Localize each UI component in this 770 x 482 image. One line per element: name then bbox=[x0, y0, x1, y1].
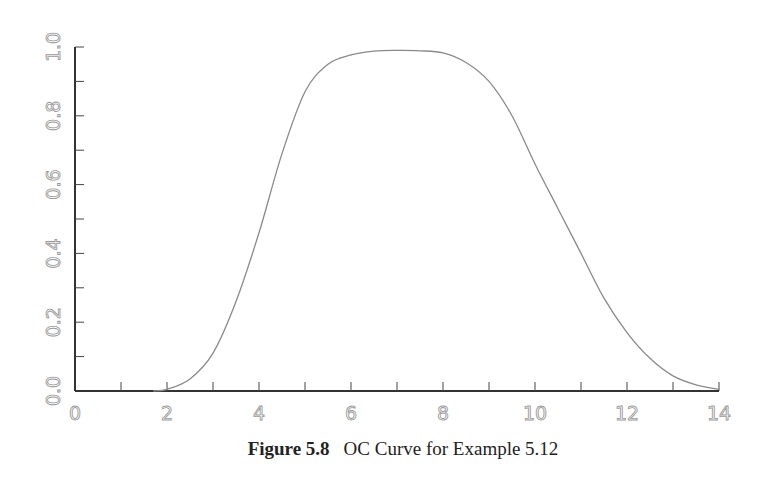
x-tick-label: 8 bbox=[437, 402, 449, 424]
x-tick-label: 14 bbox=[707, 402, 731, 424]
y-tick-label: 0.6 bbox=[42, 169, 64, 199]
y-tick-label: 0.4 bbox=[42, 238, 64, 268]
oc-curve-chart: 0.00.20.40.60.81.0 02468101214 bbox=[0, 0, 770, 482]
x-tick-label: 6 bbox=[345, 402, 357, 424]
x-tick-labels: 02468101214 bbox=[69, 402, 731, 424]
y-tick-label: 0.8 bbox=[42, 101, 64, 131]
x-tick-label: 2 bbox=[161, 402, 173, 424]
figure-title: OC Curve for Example 5.12 bbox=[344, 438, 559, 459]
y-tick-labels: 0.00.20.40.60.81.0 bbox=[42, 32, 64, 406]
x-tick-label: 10 bbox=[523, 402, 547, 424]
y-tick-label: 0.2 bbox=[42, 307, 64, 337]
x-tick-label: 4 bbox=[253, 402, 265, 424]
x-tick-label: 0 bbox=[69, 402, 81, 424]
y-tick-label: 1.0 bbox=[42, 32, 64, 62]
oc-curve-line bbox=[153, 50, 719, 391]
x-tick-label: 12 bbox=[615, 402, 639, 424]
y-tick-label: 0.0 bbox=[42, 376, 64, 406]
x-axis bbox=[75, 382, 719, 391]
figure-number: Figure 5.8 bbox=[248, 438, 330, 459]
figure-caption: Figure 5.8OC Curve for Example 5.12 bbox=[0, 438, 770, 460]
y-axis bbox=[75, 47, 84, 391]
